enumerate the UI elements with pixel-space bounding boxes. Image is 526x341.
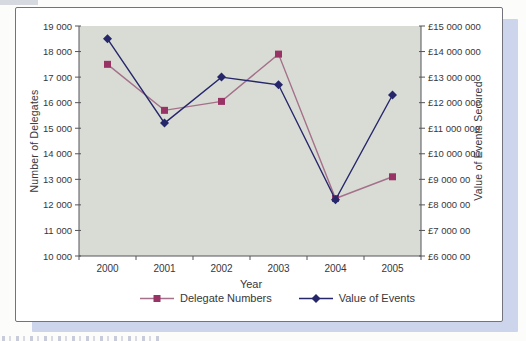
diamond-marker-glyph [299,293,333,304]
left-axis-tick-label: 12 000 [43,199,72,210]
left-axis-tick-label: 17 000 [43,72,72,83]
left-axis-tick-label: 19 000 [43,21,72,32]
delegate-numbers-marker-2001 [161,107,168,114]
legend-label: Value of Events [339,292,415,304]
right-axis-tick-label: £7 000 00 [428,225,470,236]
legend-label: Delegate Numbers [180,292,272,304]
square-marker-icon [140,293,174,304]
left-axis-tick-label: 14 000 [43,148,72,159]
left-axis-tick-label: 13 000 [43,174,72,185]
right-axis-title: Value of Events Secured [471,41,485,241]
right-axis-tick-label: £15 000 000 [428,21,481,32]
left-axis-tick-label: 18 000 [43,46,72,57]
diamond-marker-icon [299,293,333,304]
left-axis-tick-label: 11 000 [44,225,72,236]
x-axis-tick-label: 2005 [381,263,404,274]
x-axis-tick-label: 2002 [210,263,233,274]
delegate-numbers-marker-2000 [104,61,111,68]
left-axis-tick-label: 10 000 [43,251,72,262]
x-axis-tick-label: 2003 [267,263,290,274]
square-marker-glyph [140,293,174,304]
chart-frame: 19 00018 00017 00016 00015 00014 00013 0… [15,7,503,322]
left-axis-tick-label: 15 000 [43,123,72,134]
line-chart: 19 00018 00017 00016 00015 00014 00013 0… [16,8,502,321]
right-axis-tick-label: £6 000 00 [428,251,470,262]
x-axis-title: Year [196,278,306,290]
left-axis-tick-label: 16 000 [43,97,72,108]
legend-item-delegate-numbers: Delegate Numbers [140,292,272,304]
delegate-numbers-marker-2005 [389,173,396,180]
scanned-page: 19 00018 00017 00016 00015 00014 00013 0… [0,0,526,341]
delegate-numbers-marker-2003 [275,51,282,58]
x-axis-tick-label: 2000 [96,263,119,274]
right-axis-tick-label: £8 000 00 [428,199,470,210]
chart-legend: Delegate Numbers Value of Events [140,292,415,304]
x-axis-tick-label: 2001 [153,263,176,274]
legend-item-value-of-events: Value of Events [299,292,415,304]
x-axis-tick-label: 2004 [324,263,347,274]
page-edge-artifact [0,0,38,5]
plot-area [79,26,421,256]
delegate-numbers-marker-2002 [218,98,225,105]
cropped-caption-artifact [2,336,160,341]
left-axis-title: Number of Delegates [27,41,41,241]
right-axis-tick-label: £9 000 00 [428,174,470,185]
